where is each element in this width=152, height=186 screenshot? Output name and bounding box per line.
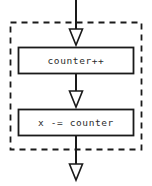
edge-middle-arrowhead-icon [70, 91, 83, 107]
flowchart-diagram: counter++ x -= counter [0, 0, 152, 186]
edge-entry-arrowhead-icon [70, 29, 83, 45]
node-subtract-label: x -= counter [38, 117, 114, 128]
node-increment-label: counter++ [48, 55, 105, 66]
edge-exit [70, 135, 83, 180]
node-increment[interactable]: counter++ [19, 48, 134, 74]
node-subtract[interactable]: x -= counter [19, 110, 134, 136]
edge-middle [70, 73, 83, 107]
flowchart-canvas: counter++ x -= counter [0, 0, 152, 186]
edge-exit-arrowhead-icon [70, 164, 83, 180]
